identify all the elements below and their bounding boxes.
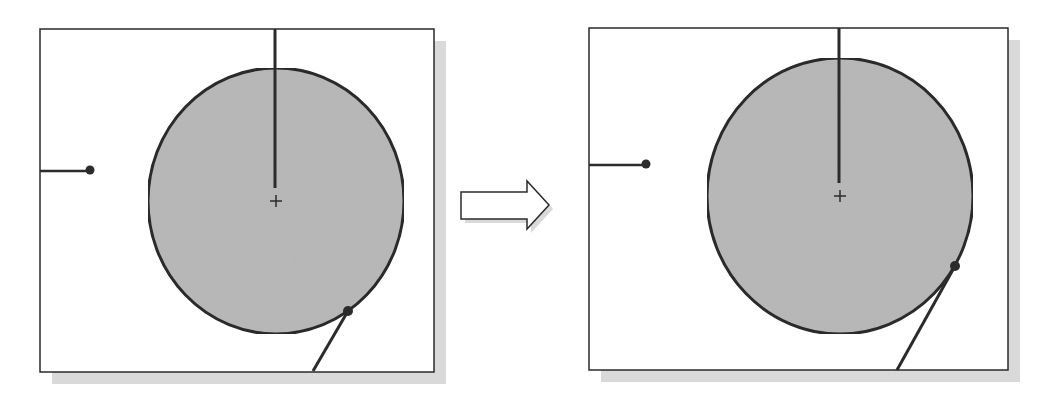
panel-before xyxy=(40,29,446,384)
left-endpoint-dot[interactable] xyxy=(642,160,651,169)
panel-after xyxy=(589,28,1020,382)
tangent-endpoint-dot[interactable] xyxy=(343,306,353,316)
right-arrow-icon xyxy=(461,181,553,233)
left-endpoint-dot[interactable] xyxy=(86,166,95,175)
diagram-canvas xyxy=(0,0,1049,405)
tangent-endpoint-dot[interactable] xyxy=(950,261,960,271)
